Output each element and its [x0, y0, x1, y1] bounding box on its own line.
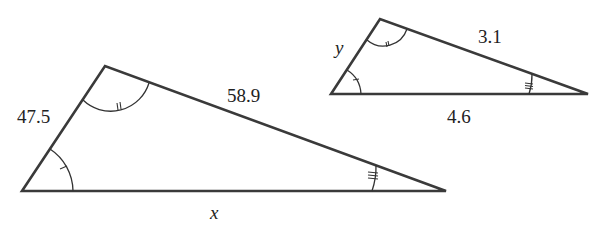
large-triangle: 47.5 58.9 x	[17, 66, 446, 223]
large-angle-arc-bottom-left	[50, 149, 73, 191]
small-bottom-side-label: 4.6	[447, 106, 471, 127]
large-top-side-label: 58.9	[227, 85, 260, 106]
triple-tick-mark-2	[525, 86, 533, 87]
triple-tick-mark-3	[368, 178, 378, 179]
double-tick-mark-2	[120, 102, 121, 109]
large-bottom-side-label: x	[209, 202, 219, 223]
double-tick-mark-1	[117, 103, 118, 110]
similar-triangles-diagram: 47.5 58.9 x y 3.1 4.6	[0, 0, 604, 229]
small-angle-arc-bottom-left	[347, 70, 361, 94]
small-left-side-label: y	[333, 37, 344, 58]
triple-tick-mark-2	[368, 175, 378, 176]
triple-tick-mark-3	[525, 88, 533, 89]
single-tick-mark	[353, 79, 359, 80]
large-left-side-label: 47.5	[17, 106, 50, 127]
triple-tick-mark-1	[368, 172, 378, 173]
small-top-side-label: 3.1	[478, 26, 502, 47]
small-triangle: y 3.1 4.6	[331, 19, 588, 127]
large-angle-arc-top	[83, 83, 149, 111]
single-tick-mark	[60, 166, 67, 169]
small-triangle-outline	[331, 19, 588, 94]
